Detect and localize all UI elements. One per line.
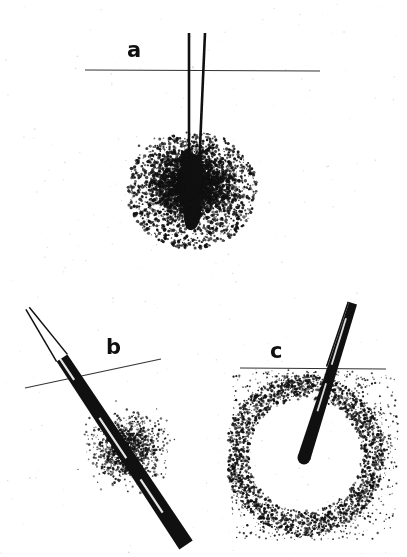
- panel-label-b: b: [106, 337, 121, 358]
- figure-illustration-canvas: [0, 0, 407, 557]
- panel-label-c: c: [270, 341, 282, 362]
- injection-technique-figure: a b c: [0, 0, 407, 557]
- panel-label-a: a: [127, 40, 141, 61]
